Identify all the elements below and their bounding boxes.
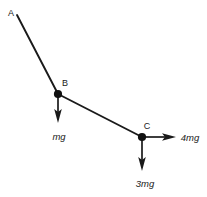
force-diagram-canvas: A B C mg 4mg 3mg [0,0,207,197]
force-vector-3mg [138,137,146,171]
node-label-c: C [144,121,151,131]
force-vector-mg [54,94,62,123]
member-b-c [58,94,142,137]
force-label-3mg: 3mg [136,178,155,189]
force-label-mg: mg [52,131,66,142]
joint-dot-b [54,90,62,98]
force-diagram-svg: A B C mg 4mg 3mg [0,0,207,197]
node-label-b: B [62,78,68,88]
force-vector-4mg [142,133,176,141]
force-label-4mg: 4mg [181,132,200,143]
joint-dot-c [138,133,146,141]
member-a-b [17,15,58,94]
node-label-a: A [8,8,14,18]
